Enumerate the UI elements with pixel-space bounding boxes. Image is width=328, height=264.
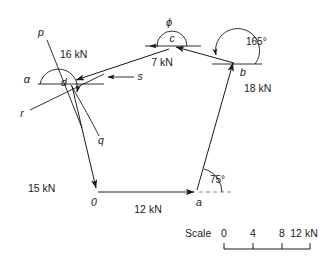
scale-caption: Scale [185,227,211,239]
node-label-b: b [240,66,246,78]
ray-label-q: q [98,134,104,146]
scale-tick-label-8: 8 [279,227,285,239]
angle-arc-alpha [40,69,77,92]
angle-label-alpha: α [24,73,31,85]
node-label-a: a [196,196,202,208]
scale-tick-label-4: 4 [250,227,256,239]
ray-label-r: r [20,107,24,119]
vector-a-to-b [197,63,233,190]
scale-tick-label-0: 0 [221,227,227,239]
force-polygon-figure: 16 kN 7 kN 18 kN 15 kN 12 kN 0 a b c d p… [0,0,328,264]
force-label-16kn: 16 kN [60,48,87,60]
angle-label-75: 75° [210,174,225,185]
ray-label-s: s [137,70,143,82]
force-label-15kn: 15 kN [28,182,55,194]
scale-bar-group [224,243,310,249]
ray-label-p: p [37,26,44,38]
vector-d-to-0 [72,86,96,188]
node-label-c: c [169,32,175,44]
scale-tick-label-12: 12 kN [290,227,317,239]
force-label-7kn: 7 kN [151,56,173,68]
force-label-18kn: 18 kN [244,82,271,94]
vector-b-to-c [176,47,234,63]
angle-label-165: 165° [246,36,267,47]
angle-label-phi: ϕ [166,16,172,28]
force-label-12kn: 12 kN [134,203,161,215]
polygon-sides [72,47,234,192]
node-label-0: 0 [91,196,97,208]
node-label-d: d [61,76,68,88]
